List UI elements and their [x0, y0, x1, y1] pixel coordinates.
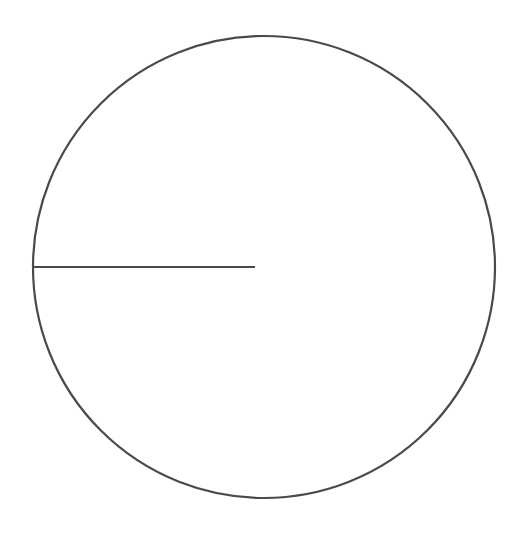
circle-diagram: [0, 0, 527, 541]
